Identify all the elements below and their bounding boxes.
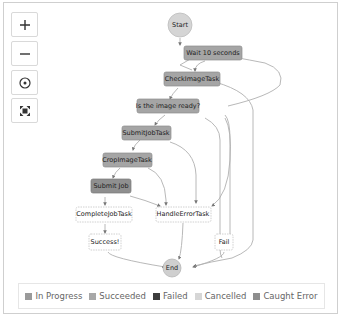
swatch-icon [89, 293, 96, 300]
node-fail[interactable]: Fail [215, 234, 233, 250]
node-submit-job-task[interactable]: SubmitJobTask [122, 126, 171, 140]
node-label: Wait 10 seconds [186, 49, 240, 57]
node-success[interactable]: Success! [89, 234, 121, 250]
state-machine-graph: Start Wait 10 seconds CheckImageTask Is … [0, 0, 342, 321]
node-label: End [166, 264, 178, 272]
node-label: Submit Job [93, 182, 128, 190]
node-end[interactable]: End [163, 259, 181, 277]
legend-label: Caught Error [263, 291, 317, 301]
node-handle-error-task[interactable]: HandleErrorTask [156, 207, 211, 222]
node-label: HandleErrorTask [157, 210, 210, 218]
node-wait[interactable]: Wait 10 seconds [184, 46, 242, 60]
legend-caught-error: Caught Error [253, 291, 317, 301]
node-label: SubmitJobTask [122, 129, 169, 137]
swatch-icon [25, 293, 32, 300]
legend-label: Cancelled [205, 291, 247, 301]
node-complete-job-task[interactable]: CompleteJobTask [76, 207, 132, 222]
node-is-image-ready[interactable]: Is the image ready? [136, 99, 200, 113]
swatch-icon [153, 293, 160, 300]
legend-label: Succeeded [99, 291, 146, 301]
legend-label: Failed [163, 291, 188, 301]
node-crop-image-task[interactable]: CropImageTask [102, 153, 152, 167]
node-start[interactable]: Start [168, 13, 192, 37]
swatch-icon [253, 293, 260, 300]
node-label: Is the image ready? [136, 102, 200, 110]
node-check-image-task[interactable]: CheckImageTask [164, 72, 220, 86]
legend-succeeded: Succeeded [89, 291, 146, 301]
node-label: CompleteJobTask [76, 210, 132, 218]
node-label: CheckImageTask [165, 75, 220, 83]
node-label: Fail [219, 238, 230, 246]
legend-label: In Progress [35, 291, 82, 301]
node-label: Start [172, 21, 188, 29]
node-submit-job[interactable]: Submit Job [91, 179, 131, 193]
swatch-icon [195, 293, 202, 300]
status-legend: In Progress Succeeded Failed Cancelled C… [18, 283, 325, 309]
legend-failed: Failed [153, 291, 188, 301]
legend-in-progress: In Progress [25, 291, 82, 301]
legend-cancelled: Cancelled [195, 291, 247, 301]
node-label: CropImageTask [102, 156, 152, 164]
node-label: Success! [91, 238, 120, 246]
